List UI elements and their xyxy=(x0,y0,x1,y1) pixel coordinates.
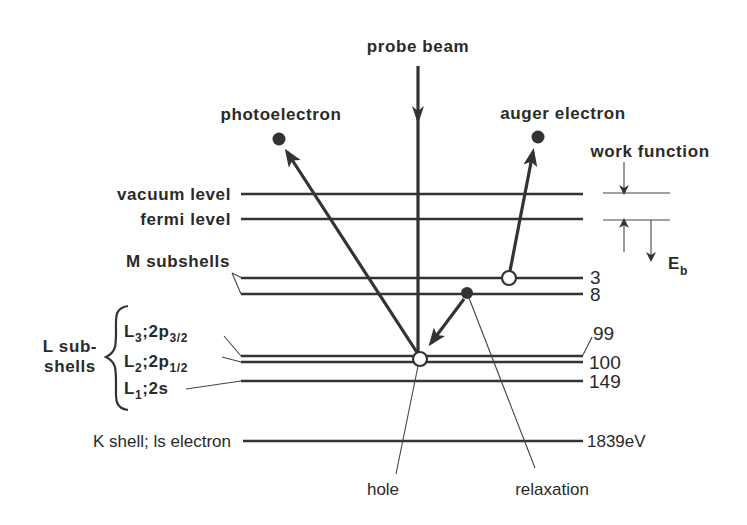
m-subshells-label: M subshells xyxy=(126,252,230,271)
probe-beam-arrow xyxy=(412,66,424,355)
photoelectron-dot xyxy=(273,133,286,146)
m8-energy: 8 xyxy=(590,284,601,305)
photoelectron-arrow xyxy=(287,152,418,354)
relaxation-electron-dot xyxy=(461,287,473,299)
k-shell-label: K shell; ls electron xyxy=(93,432,231,451)
relaxation-label: relaxation xyxy=(515,480,589,499)
auger-electron-dot xyxy=(532,131,545,144)
binding-energy-label: Eb xyxy=(668,254,688,278)
core-hole-circle xyxy=(413,352,427,366)
probe-beam-label: probe beam xyxy=(367,37,469,56)
l3-leader xyxy=(224,336,241,356)
relaxation-arrow xyxy=(431,299,464,343)
vacuum-level-label: vacuum level xyxy=(117,185,231,204)
l2-leader xyxy=(222,357,241,362)
l3-energy: 99 xyxy=(593,323,614,344)
l2-label: L2;2p1/2 xyxy=(124,352,188,375)
l2-energy: 100 xyxy=(589,352,621,373)
l-subshells-label-line1: L sub- xyxy=(43,337,97,356)
hole-label: hole xyxy=(367,480,399,499)
l1-label: L1;2s xyxy=(124,379,169,402)
work-function-label: work function xyxy=(589,142,709,161)
l3-label: L3;2p3/2 xyxy=(124,322,188,345)
fermi-level-label: fermi level xyxy=(140,210,231,229)
l-subshells-label-line2: shells xyxy=(44,357,96,376)
photoelectron-label: photoelectron xyxy=(220,105,341,124)
m-leader-2 xyxy=(232,273,241,294)
auger-vacancy-circle xyxy=(502,271,516,285)
l1-energy: 149 xyxy=(589,371,621,392)
k-energy: 1839eV xyxy=(587,432,646,451)
auger-electron-arrow xyxy=(510,152,533,271)
auger-electron-label: auger electron xyxy=(500,104,626,123)
relaxation-leader xyxy=(469,298,535,468)
auger-process-diagram: probe beam photoelectron auger electron … xyxy=(0,0,747,525)
l1-leader xyxy=(186,381,241,389)
